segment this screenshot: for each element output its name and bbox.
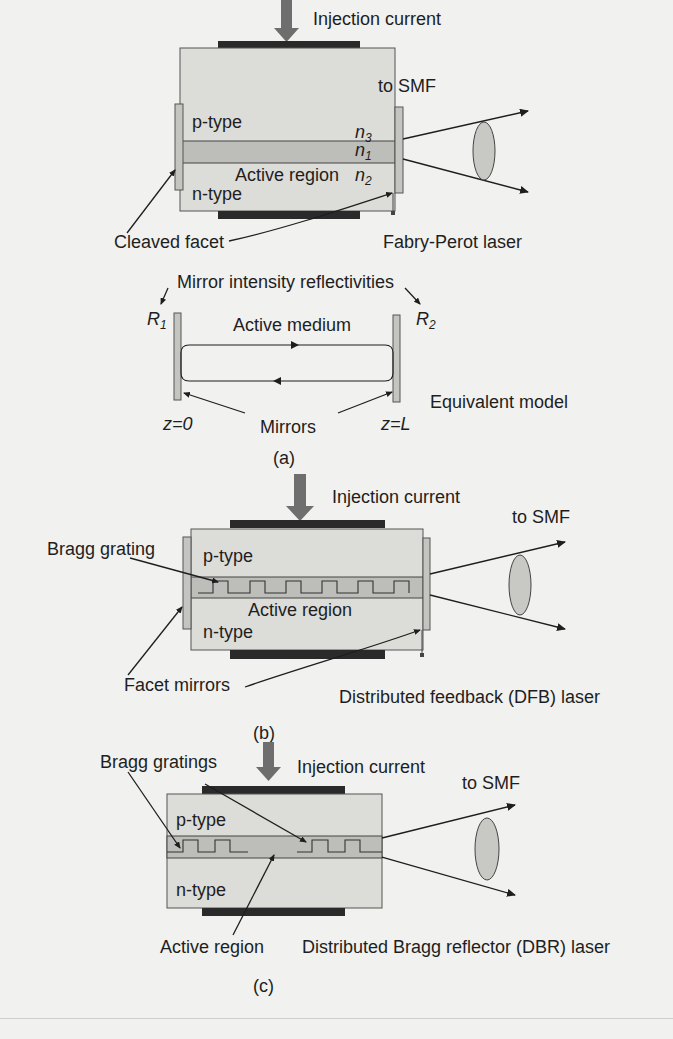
to-smf-label: to SMF (512, 507, 570, 527)
bottom-electrode (230, 650, 385, 659)
reflectivities-label: Mirror intensity reflectivities (177, 272, 394, 292)
round-trip-path (181, 345, 393, 381)
active-medium-label: Active medium (233, 315, 351, 335)
output-beam-lower (430, 595, 565, 629)
dbr-laser-label: Distributed Bragg reflector (DBR) laser (302, 937, 610, 957)
n-type-label: n-type (176, 880, 226, 900)
p-type-label: p-type (203, 546, 253, 566)
equivalent-model-label: Equivalent model (430, 392, 568, 412)
top-electrode (202, 786, 345, 794)
injection-current-label: Injection current (297, 757, 425, 777)
fabry-perot-label: Fabry-Perot laser (383, 232, 522, 252)
bottom-electrode (218, 211, 360, 219)
caption-b: (b) (253, 723, 275, 743)
page-edge-divider (0, 1018, 673, 1019)
bragg-grating-label: Bragg grating (47, 539, 155, 559)
n-type-label: n-type (203, 622, 253, 642)
output-beam-upper (430, 542, 565, 574)
active-layer (191, 577, 423, 598)
panel-a-fabry-perot: Injection current p-type n-type Active r… (114, 0, 568, 468)
r1-label: R1 (147, 309, 167, 332)
bragg-gratings-label: Bragg gratings (100, 752, 217, 772)
z0-label: z=0 (162, 414, 193, 434)
active-region-label: Active region (235, 165, 339, 185)
output-beam-upper (403, 111, 528, 139)
active-region-label: Active region (160, 937, 264, 957)
caption-c: (c) (253, 976, 274, 996)
cleaved-facet-label: Cleaved facet (114, 232, 224, 252)
to-smf-label: to SMF (378, 76, 436, 96)
lens-icon (473, 122, 495, 180)
injection-arrow-icon (274, 0, 299, 42)
top-electrode (230, 520, 385, 528)
injection-current-label: Injection current (332, 487, 460, 507)
injection-arrow-icon (286, 474, 314, 521)
active-region-label: Active region (248, 600, 352, 620)
left-facet (175, 104, 183, 190)
n-type-label: n-type (192, 184, 242, 204)
equivalent-model: Mirror intensity reflectivities R1 R2 Ac… (147, 272, 568, 437)
injection-current-label: Injection current (313, 9, 441, 29)
mirror-left (174, 313, 181, 400)
panel-c-dbr: Injection current Bragg gratings p-type … (100, 742, 610, 996)
laser-diagram-figure: Injection current p-type n-type Active r… (0, 0, 673, 1039)
caption-a: (a) (273, 448, 295, 468)
panel-b-dfb: Injection current p-type n-type Active r… (47, 474, 600, 743)
right-facet (395, 107, 403, 193)
to-smf-label: to SMF (462, 773, 520, 793)
zl-label: z=L (380, 414, 411, 434)
r2-label: R2 (416, 309, 436, 332)
mirror-right (393, 315, 400, 402)
mirrors-label: Mirrors (260, 417, 316, 437)
lens-icon (509, 555, 531, 615)
facet-mirrors-label: Facet mirrors (124, 675, 230, 695)
left-facet (183, 537, 191, 629)
p-type-label: p-type (192, 112, 242, 132)
dfb-laser-label: Distributed feedback (DFB) laser (339, 687, 600, 707)
active-layer (167, 836, 382, 858)
injection-arrow-icon (256, 742, 281, 781)
bottom-electrode (202, 908, 345, 916)
lens-icon (475, 818, 499, 880)
p-type-label: p-type (176, 810, 226, 830)
output-beam-lower (403, 159, 528, 192)
right-facet (423, 538, 430, 630)
